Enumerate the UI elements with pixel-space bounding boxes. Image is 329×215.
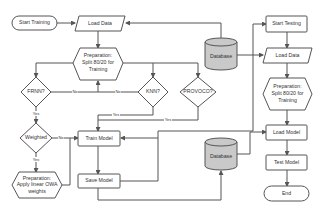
node-load-data-test: Load Data (263, 48, 312, 63)
svg-text:PROVOCO?: PROVOCO? (183, 88, 213, 94)
label-provoco-yes: Yes (165, 117, 172, 122)
database-bottom: Database (205, 138, 237, 170)
node-prep-owa: Preparation: Apply linear OWA weights (12, 172, 62, 198)
node-save-model: Save Model (78, 174, 120, 188)
edge-db2-to-loadmodel (237, 132, 266, 154)
svg-text:Preparation:: Preparation: (84, 52, 112, 58)
node-prep-split-train: Preparation: Split 80/20 for Training (73, 48, 123, 80)
node-provoco-decision: PROVOCO? (180, 77, 216, 107)
label-frnn-no: No (72, 89, 78, 94)
node-test-model: Test Model (266, 155, 307, 170)
svg-text:Training: Training (89, 66, 108, 72)
flowchart-canvas: No No Yes Yes Yes No Yes Start Training … (0, 0, 329, 215)
svg-text:Database: Database (210, 53, 232, 59)
svg-text:KNN?: KNN? (146, 88, 160, 94)
edge-prep-to-provoco (123, 63, 198, 77)
edge-owa-to-train (62, 138, 70, 185)
svg-text:Load Model: Load Model (273, 129, 300, 135)
node-load-model: Load Model (266, 125, 307, 140)
node-start-testing: Start Testing (266, 16, 307, 32)
label-knn-no: No (115, 89, 121, 94)
svg-text:Load Data: Load Data (88, 20, 112, 26)
node-prep-split-test: Preparation: Split 80/20 for Training (263, 78, 312, 110)
svg-text:Test Model: Test Model (274, 159, 299, 165)
svg-text:FRNN?: FRNN? (27, 88, 44, 94)
svg-text:Training: Training (278, 97, 297, 103)
edge-prep-to-frnn (36, 63, 73, 77)
svg-text:Weighted: Weighted (25, 134, 47, 140)
label-weighted-no: No (58, 135, 64, 140)
node-weighted-decision: Weighted (20, 123, 52, 153)
svg-text:Preparation:: Preparation: (23, 175, 51, 181)
svg-text:Apply linear OWA: Apply linear OWA (17, 181, 58, 187)
svg-text:Train Model: Train Model (85, 135, 112, 141)
edge-db-to-load (126, 23, 221, 38)
node-train-model: Train Model (78, 131, 120, 146)
label-weighted-yes: Yes (33, 157, 40, 162)
database-top: Database (205, 38, 237, 70)
svg-text:Preparation:: Preparation: (273, 83, 301, 89)
svg-text:Split 80/20 for: Split 80/20 for (82, 59, 114, 65)
node-load-data-train: Load Data (75, 16, 125, 31)
svg-text:Split 80/20 for: Split 80/20 for (271, 90, 303, 96)
svg-text:Database: Database (210, 153, 232, 159)
svg-text:Save Model: Save Model (85, 177, 112, 183)
svg-text:weights: weights (28, 188, 46, 194)
svg-text:Load Data: Load Data (276, 52, 300, 58)
label-knn-yes: Yes (113, 112, 120, 117)
node-knn-decision: KNN? (138, 77, 168, 107)
edge-knn-yes (98, 107, 153, 131)
node-frnn-decision: FRNN? (21, 77, 51, 107)
edge-to-start-testing (253, 24, 266, 120)
svg-text:End: End (282, 190, 291, 196)
label-frnn-yes: Yes (33, 111, 40, 116)
svg-text:Start Testing: Start Testing (272, 20, 301, 26)
node-start-training: Start Training (12, 16, 57, 30)
node-end: End (264, 186, 309, 201)
svg-text:Start Training: Start Training (19, 19, 50, 25)
edges (36, 23, 287, 200)
